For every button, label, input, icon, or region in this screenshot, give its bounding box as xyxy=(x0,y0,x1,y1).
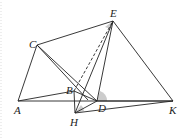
label-C: C xyxy=(29,38,37,50)
label-A: A xyxy=(13,104,21,116)
label-D: D xyxy=(97,102,106,114)
label-K: K xyxy=(168,104,177,116)
label-E: E xyxy=(109,7,117,19)
label-B: B xyxy=(66,84,73,96)
label-H: H xyxy=(69,116,79,128)
segments xyxy=(18,21,173,113)
geometry-diagram: E C A B D H K xyxy=(0,0,186,140)
